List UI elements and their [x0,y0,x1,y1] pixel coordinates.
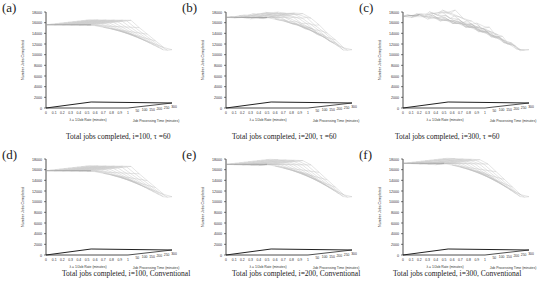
svg-text:0.9: 0.9 [474,258,479,262]
svg-text:λ = 1/Job Rate (minutes): λ = 1/Job Rate (minutes) [69,118,106,122]
panel-label: (a) [2,0,16,16]
svg-text:0.6: 0.6 [450,111,455,115]
svg-text:0: 0 [220,107,222,111]
panel-caption: Total jobs completed, i=200, τ =60 [232,132,336,141]
svg-text:0: 0 [225,258,227,262]
svg-text:150: 150 [506,108,512,112]
svg-text:0.3: 0.3 [68,111,73,115]
svg-text:10000: 10000 [212,200,222,204]
svg-text:0.8: 0.8 [289,111,294,115]
svg-text:14000: 14000 [32,32,42,36]
panel-caption: Total jobs completed, i=300, Conventiona… [393,269,521,278]
svg-text:6000: 6000 [34,75,42,79]
svg-text:50: 50 [492,256,496,260]
svg-text:16000: 16000 [212,21,222,25]
svg-text:0.5: 0.5 [265,111,270,115]
panel-label: (d) [2,147,17,163]
svg-text:8000: 8000 [214,211,222,215]
svg-text:λ = 1/Job Rate (minutes): λ = 1/Job Rate (minutes) [249,118,286,122]
svg-text:0.7: 0.7 [458,258,463,262]
svg-text:16000: 16000 [389,21,399,25]
svg-text:12000: 12000 [212,43,222,47]
svg-text:4000: 4000 [391,232,399,236]
svg-text:200: 200 [336,254,342,258]
svg-text:150: 150 [329,108,335,112]
svg-text:12000: 12000 [389,43,399,47]
svg-text:50: 50 [315,256,319,260]
svg-text:14000: 14000 [389,179,399,183]
svg-text:12000: 12000 [212,190,222,194]
panel-label: (e) [182,147,196,163]
svg-text:0: 0 [397,107,399,111]
svg-text:18000: 18000 [32,11,42,15]
svg-text:0.2: 0.2 [60,258,65,262]
svg-text:200: 200 [513,107,519,111]
svg-text:Number Jobs Completed: Number Jobs Completed [201,40,205,80]
surface-mesh [46,166,172,198]
svg-text:0.2: 0.2 [60,111,65,115]
svg-text:0.2: 0.2 [417,111,422,115]
svg-text:0.4: 0.4 [76,258,81,262]
svg-text:6000: 6000 [391,222,399,226]
svg-text:0: 0 [402,111,404,115]
svg-text:16000: 16000 [389,168,399,172]
svg-text:0.6: 0.6 [273,258,278,262]
surface-plot: 0200040006000800010000120001400016000180… [357,0,537,130]
panel-c: 0200040006000800010000120001400016000180… [357,0,535,148]
svg-text:50: 50 [135,256,139,260]
svg-text:0.4: 0.4 [256,258,261,262]
svg-text:100: 100 [499,108,505,112]
svg-text:0.6: 0.6 [93,111,98,115]
svg-text:2000: 2000 [34,96,42,100]
svg-text:10000: 10000 [389,53,399,57]
svg-text:200: 200 [156,254,162,258]
svg-text:6000: 6000 [214,75,222,79]
svg-text:2000: 2000 [391,243,399,247]
svg-text:100: 100 [142,108,148,112]
svg-text:0: 0 [220,254,222,258]
svg-text:0.1: 0.1 [232,111,237,115]
svg-text:0.6: 0.6 [93,258,98,262]
svg-text:2000: 2000 [34,243,42,247]
svg-text:14000: 14000 [389,32,399,36]
svg-text:0.8: 0.8 [466,111,471,115]
svg-text:8000: 8000 [391,64,399,68]
surface-mesh [226,159,352,197]
surface-plot: 0200040006000800010000120001400016000180… [0,147,180,277]
svg-text:12000: 12000 [32,43,42,47]
svg-text:0.9: 0.9 [297,111,302,115]
svg-text:18000: 18000 [389,158,399,162]
svg-text:Job Processing Time (minutes): Job Processing Time (minutes) [313,119,360,123]
svg-text:0.7: 0.7 [101,111,106,115]
svg-text:8000: 8000 [34,64,42,68]
surface-mesh [403,158,529,197]
svg-text:0.8: 0.8 [289,258,294,262]
svg-text:8000: 8000 [214,64,222,68]
svg-text:18000: 18000 [389,11,399,15]
svg-text:0.1: 0.1 [409,258,414,262]
svg-text:8000: 8000 [391,211,399,215]
svg-text:8000: 8000 [34,211,42,215]
svg-text:Number Jobs Completed: Number Jobs Completed [201,187,205,227]
svg-text:0.2: 0.2 [417,258,422,262]
svg-text:18000: 18000 [212,11,222,15]
svg-text:16000: 16000 [32,168,42,172]
svg-text:0: 0 [45,111,47,115]
svg-text:0: 0 [40,107,42,111]
svg-text:2000: 2000 [214,243,222,247]
svg-text:100: 100 [499,255,505,259]
panel-label: (b) [182,0,197,16]
svg-text:0.5: 0.5 [442,258,447,262]
svg-text:0.7: 0.7 [281,111,286,115]
panel-b: 0200040006000800010000120001400016000180… [180,0,358,148]
panel-e: 0200040006000800010000120001400016000180… [180,147,358,295]
svg-text:200: 200 [513,254,519,258]
svg-text:300: 300 [171,252,177,256]
svg-text:1: 1 [307,258,309,262]
svg-text:0.5: 0.5 [442,111,447,115]
svg-text:10000: 10000 [32,53,42,57]
svg-text:150: 150 [329,255,335,259]
svg-text:Number Jobs Completed: Number Jobs Completed [378,40,382,80]
svg-text:250: 250 [344,106,350,110]
svg-text:Job Processing Time (minutes): Job Processing Time (minutes) [133,119,180,123]
